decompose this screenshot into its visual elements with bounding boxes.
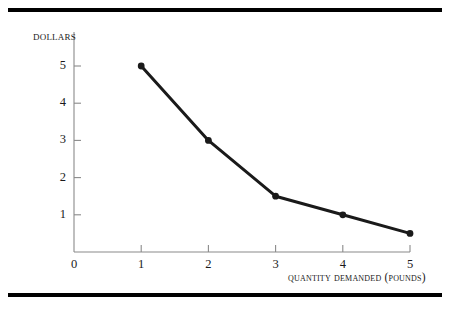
x-tick-label: 2 bbox=[198, 257, 218, 272]
x-axis-title: Quantity demanded (pounds) bbox=[288, 271, 426, 283]
tick-marks bbox=[74, 66, 410, 252]
x-tick-label: 5 bbox=[400, 257, 420, 272]
x-tick-label: 0 bbox=[64, 257, 84, 272]
y-tick-label: 4 bbox=[50, 95, 66, 110]
y-axis-title: Dollars bbox=[33, 29, 76, 44]
data-point-markers bbox=[138, 63, 414, 237]
y-tick-label: 3 bbox=[50, 132, 66, 147]
y-tick-label: 1 bbox=[50, 207, 66, 222]
demand-curve bbox=[141, 66, 410, 233]
x-tick-label: 3 bbox=[266, 257, 286, 272]
x-tick-label: 1 bbox=[131, 257, 151, 272]
y-tick-label: 2 bbox=[50, 170, 66, 185]
figure-canvas: Dollars Quantity demanded (pounds) 01234… bbox=[0, 0, 453, 310]
y-tick-label: 5 bbox=[50, 58, 66, 73]
x-tick-label: 4 bbox=[333, 257, 353, 272]
